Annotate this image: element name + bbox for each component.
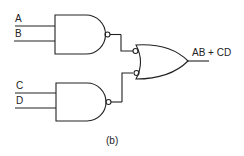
output-label: AB + CD	[192, 48, 231, 58]
wire-nand1-to-or	[121, 35, 133, 52]
nand-gate-1	[55, 15, 106, 54]
input-label-b: B	[15, 29, 22, 39]
wire-nand2-to-or	[122, 73, 133, 102]
or-gate	[136, 45, 188, 79]
input-bubble-1	[133, 49, 138, 54]
input-label-c: C	[16, 81, 23, 91]
input-label-d: D	[16, 96, 23, 106]
figure-caption: (b)	[106, 136, 118, 146]
inverter-bubble-2	[106, 100, 111, 105]
logic-circuit-diagram	[0, 0, 244, 156]
input-label-a: A	[15, 14, 22, 24]
nand-gate-2	[56, 83, 106, 121]
